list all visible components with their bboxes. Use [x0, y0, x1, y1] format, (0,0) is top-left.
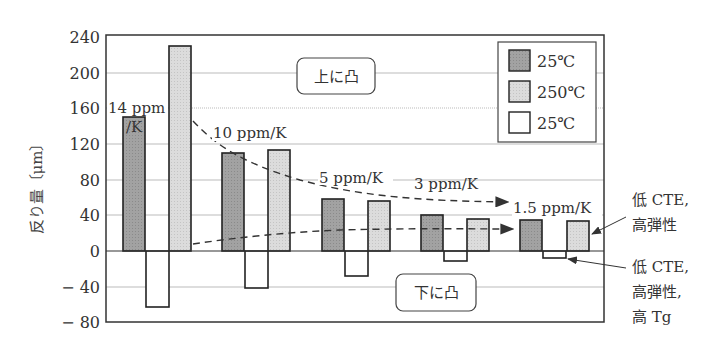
y-axis-ticks: 240 200 160 120 80 40 0 − 40 − 80: [61, 28, 100, 332]
side-note-2: 低 CTE, 高弾性, 高 Tg: [632, 258, 689, 326]
svg-text:高 Tg: 高 Tg: [632, 308, 672, 326]
svg-text:下に凸: 下に凸: [414, 284, 459, 302]
bar-25c-after: [543, 251, 566, 258]
bar-25c-after: [345, 251, 368, 276]
svg-text:低 CTE,: 低 CTE,: [632, 258, 689, 276]
svg-text:14 ppm: 14 ppm: [108, 99, 165, 117]
bar-25c-after: [146, 251, 169, 307]
svg-text:1.5 ppm/K: 1.5 ppm/K: [513, 199, 592, 217]
legend-swatch-25c: [509, 50, 530, 71]
svg-text:3 ppm/K: 3 ppm/K: [414, 175, 479, 193]
side-note-2-pointer: [568, 259, 626, 268]
legend: 25℃ 250℃ 25℃: [498, 42, 596, 142]
svg-text:高弾性: 高弾性: [632, 216, 677, 234]
bar-25c: [123, 117, 145, 251]
bar-25c-after: [245, 251, 268, 288]
bar-250c: [467, 219, 489, 251]
svg-text:120: 120: [69, 135, 100, 154]
bar-250c: [368, 201, 390, 251]
svg-text:高弾性,: 高弾性,: [632, 283, 682, 301]
bar-25c: [520, 220, 542, 251]
bar-group-10ppm: [222, 150, 290, 288]
svg-text:80: 80: [80, 171, 100, 190]
bar-25c: [222, 153, 244, 251]
svg-text:上に凸: 上に凸: [314, 68, 359, 86]
bar-250c: [567, 221, 589, 251]
bar-25c: [421, 215, 443, 251]
bar-group-14ppm: [123, 46, 191, 307]
convex-down-label: 下に凸: [396, 274, 476, 311]
svg-text:5 ppm/K: 5 ppm/K: [319, 169, 384, 187]
side-note-1-pointer: [592, 217, 626, 234]
svg-text:低 CTE,: 低 CTE,: [632, 191, 689, 209]
svg-text:10 ppm/K: 10 ppm/K: [213, 124, 287, 142]
svg-text:− 40: − 40: [61, 278, 100, 297]
bar-25c-after: [444, 251, 467, 261]
svg-text:200: 200: [69, 64, 100, 83]
svg-text:40: 40: [80, 206, 100, 225]
svg-text:250℃: 250℃: [537, 83, 585, 102]
convex-up-label: 上に凸: [297, 58, 375, 94]
bar-group-1-5ppm: [520, 220, 589, 258]
warpage-bar-chart: 240 200 160 120 80 40 0 − 40 − 80 反り量〔μm…: [0, 0, 723, 354]
bar-group-5ppm: [322, 199, 390, 276]
y-axis-label: 反り量〔μm〕: [28, 136, 46, 235]
legend-swatch-25c-after: [509, 112, 530, 133]
svg-text:25℃: 25℃: [537, 52, 575, 71]
bar-group-3ppm: [421, 215, 489, 261]
legend-swatch-250c: [509, 81, 530, 102]
bar-250c: [169, 46, 191, 251]
svg-text:/K: /K: [126, 118, 143, 136]
side-note-1: 低 CTE, 高弾性: [632, 191, 689, 234]
svg-text:25℃: 25℃: [537, 114, 575, 133]
bar-250c: [268, 150, 290, 251]
svg-text:0: 0: [90, 242, 100, 261]
svg-text:− 80: − 80: [61, 313, 100, 332]
svg-text:160: 160: [69, 99, 100, 118]
svg-text:240: 240: [69, 28, 100, 47]
bar-25c: [322, 199, 344, 251]
